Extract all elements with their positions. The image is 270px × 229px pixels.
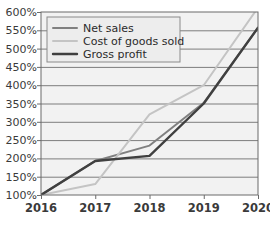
x-axis-tick-label: 2020 (242, 201, 270, 215)
y-axis-tick-label: 300% (6, 116, 37, 129)
y-axis-tick-labels: 100%150%200%250%300%350%400%450%500%550%… (6, 6, 37, 202)
chart-canvas: 100%150%200%250%300%350%400%450%500%550%… (0, 0, 270, 229)
legend-label-cost-of-goods-sold: Cost of goods sold (83, 35, 184, 48)
x-axis-tick-label: 2017 (79, 201, 111, 215)
chart-legend: Net salesCost of goods soldGross profit (47, 17, 184, 62)
x-axis-tick-label: 2019 (188, 201, 220, 215)
x-axis-tick-label: 2018 (133, 201, 165, 215)
legend-label-net-sales: Net sales (83, 22, 134, 35)
y-axis-tick-label: 500% (6, 43, 37, 56)
y-axis-tick-label: 250% (6, 134, 37, 147)
y-axis-tick-label: 550% (6, 24, 37, 37)
legend-label-gross-profit: Gross profit (83, 48, 147, 61)
y-axis-tick-label: 600% (6, 6, 37, 19)
y-axis-tick-label: 450% (6, 61, 37, 74)
y-axis-tick-label: 350% (6, 98, 37, 111)
y-axis-tick-label: 200% (6, 152, 37, 165)
y-axis-tick-label: 400% (6, 79, 37, 92)
line-chart: 100%150%200%250%300%350%400%450%500%550%… (0, 0, 270, 229)
y-axis-tick-label: 150% (6, 171, 37, 184)
x-axis-tick-label: 2016 (25, 201, 57, 215)
